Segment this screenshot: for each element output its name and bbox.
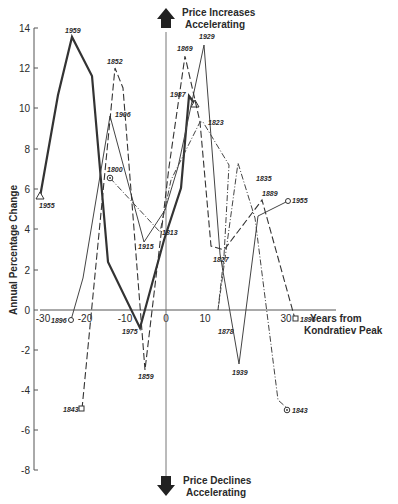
label-1813: 1813 [162, 229, 178, 236]
x-tick-10: 10 [199, 313, 211, 324]
y-axis-label: Annual Percentage Change [8, 185, 19, 315]
label-1843b: 1843 [292, 407, 308, 414]
y-tick-14: 14 [19, 23, 31, 34]
y-tick-12: 12 [19, 63, 31, 74]
label-1955a: 1955 [39, 202, 55, 209]
label-1915: 1915 [138, 243, 154, 250]
y-tick-0: 0 [24, 305, 30, 316]
label-1906: 1906 [115, 111, 131, 118]
circle-marker-icon [69, 318, 74, 323]
y-tick-neg2: -2 [21, 345, 30, 356]
bottom-annotation-line2: Accelerating [186, 487, 246, 498]
label-1896a: 1896 [51, 317, 67, 324]
y-tick-4: 4 [24, 224, 30, 235]
x-axis: -30 -20 -10 0 10 30 Years from Kondratie… [36, 310, 383, 336]
y-tick-10: 10 [19, 103, 31, 114]
point-labels: 1955 1959 1852 1906 1800 1915 1813 1975 … [39, 27, 316, 414]
bottom-annotation-line1: Price Declines [183, 475, 252, 486]
label-1939: 1939 [232, 369, 248, 376]
label-1843a: 1843 [63, 406, 79, 413]
y-tick-6: 6 [24, 184, 30, 195]
y-tick-neg8: -8 [21, 465, 30, 476]
x-tick-neg30: -30 [36, 313, 51, 324]
label-1852: 1852 [107, 58, 123, 65]
y-tick-neg6: -6 [21, 425, 30, 436]
label-1835: 1835 [256, 175, 272, 182]
top-annotation-line2: Accelerating [185, 19, 245, 30]
square-marker-icon [79, 406, 84, 411]
label-1800: 1800 [107, 166, 123, 173]
x-tick-neg10: -10 [118, 313, 133, 324]
y-tick-2: 2 [24, 265, 30, 276]
up-arrow-icon [157, 8, 175, 28]
y-tick-8: 8 [24, 144, 30, 155]
label-1878: 1878 [218, 328, 234, 335]
y-axis: 14 12 10 8 6 4 2 0 -2 -4 -6 -8 Annual Pe… [8, 23, 38, 476]
label-1859: 1859 [138, 373, 154, 380]
label-1823: 1823 [208, 119, 224, 126]
down-arrow-icon [157, 476, 175, 496]
circle-marker-icon [286, 199, 291, 204]
series-thick-solid [36, 37, 199, 328]
label-1889: 1889 [262, 190, 278, 197]
x-axis-label-line1: Years from [310, 313, 362, 324]
x-axis-label-line2: Kondratiev Peak [304, 325, 383, 336]
label-1869: 1869 [177, 45, 193, 52]
triangle-marker-icon [36, 192, 44, 199]
x-tick-30: 30 [280, 313, 292, 324]
label-1987: 1987 [170, 91, 187, 98]
label-1896b: 1896 [300, 316, 316, 323]
top-annotation-line1: Price Increases [182, 7, 256, 18]
label-1959: 1959 [65, 27, 81, 34]
kondratiev-chart: 14 12 10 8 6 4 2 0 -2 -4 -6 -8 Annual Pe… [0, 0, 398, 504]
series-dash-dot [107, 122, 290, 413]
label-1955b: 1955 [292, 197, 308, 204]
label-1929: 1929 [199, 33, 215, 40]
label-1975: 1975 [122, 328, 138, 335]
square-marker-icon [293, 316, 298, 321]
y-tick-neg4: -4 [21, 385, 30, 396]
label-1827: 1827 [213, 256, 230, 263]
